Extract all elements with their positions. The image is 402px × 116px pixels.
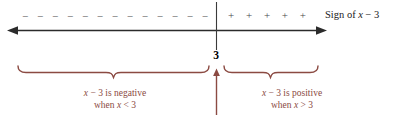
- plus-sign-icon: +: [282, 10, 288, 21]
- minus-sign-icon: −: [142, 11, 148, 22]
- critical-value-label: 3: [209, 49, 223, 61]
- minus-sign-icon: −: [202, 11, 208, 22]
- brace-positive: [224, 66, 318, 78]
- plus-sign-icon: +: [228, 10, 234, 21]
- positive-caption-line-1: x − 3 is positive: [232, 87, 352, 99]
- minus-sign-icon: −: [82, 11, 88, 22]
- plus-sign-icon: +: [246, 10, 252, 21]
- minus-sign-icon: −: [172, 11, 178, 22]
- negative-sign-row: − − − − − − − − − − − − −: [22, 11, 208, 22]
- minus-sign-icon: −: [157, 11, 163, 22]
- axis-label-operator: −: [363, 9, 374, 20]
- negative-caption-line-1: x − 3 is negative: [46, 87, 184, 99]
- arrowhead-up-icon: [213, 69, 220, 77]
- number-line-axis: [7, 26, 327, 34]
- minus-sign-icon: −: [187, 11, 193, 22]
- negative-region-caption: x − 3 is negative when x < 3: [46, 87, 184, 111]
- arrowhead-left-icon: [7, 26, 18, 34]
- brace-negative: [18, 66, 209, 78]
- minus-sign-icon: −: [112, 11, 118, 22]
- arrowhead-right-icon: [316, 26, 327, 34]
- minus-sign-icon: −: [52, 11, 58, 22]
- positive-region-caption: x − 3 is positive when x > 3: [232, 87, 352, 111]
- minus-sign-icon: −: [67, 11, 73, 22]
- critical-value-pointer: [213, 69, 220, 116]
- positive-caption-line-2: when x > 3: [232, 99, 352, 111]
- minus-sign-icon: −: [97, 11, 103, 22]
- plus-sign-icon: +: [300, 10, 306, 21]
- axis-label-prefix: Sign of: [325, 9, 358, 20]
- minus-sign-icon: −: [37, 11, 43, 22]
- positive-sign-row: + + + + +: [228, 10, 306, 21]
- plus-sign-icon: +: [264, 10, 270, 21]
- sign-chart-figure: − − − − − − − − − − − − − + + + + + Sign…: [0, 0, 402, 115]
- minus-sign-icon: −: [22, 11, 28, 22]
- axis-label-constant: 3: [374, 9, 379, 20]
- negative-caption-line-2: when x < 3: [46, 99, 184, 111]
- minus-sign-icon: −: [127, 11, 133, 22]
- axis-label: Sign of x − 3: [325, 9, 379, 20]
